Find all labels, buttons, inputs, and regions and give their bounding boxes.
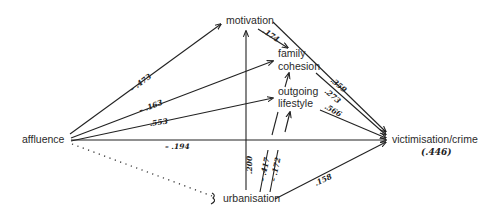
coef-urbanisation-victimisation: .158 [313,172,334,188]
coef-outgoing-lifestyle-victimisation: .566 [323,102,344,119]
node-victimisation-crime: victimisation/crime [392,133,478,145]
node-family-cohesion-line1: family [278,47,306,59]
coef-affluence-victimisation: – .194 [165,142,190,151]
victimisation-r-squared: (.446) [421,147,451,157]
edge-urbanisation-outgoing-lifestyle-upper [285,112,290,132]
node-outgoing-lifestyle-line2: lifestyle [278,97,313,109]
edge-urbanisation-victimisation [275,142,386,199]
path-diagram: affluence motivation family cohesion out… [0,0,495,214]
edge-outgoing-lifestyle-victimisation [320,110,386,138]
node-motivation: motivation [226,14,274,26]
coef-affluence-family-cohesion: – .163 [138,98,164,115]
coef-affluence-outgoing-lifestyle: .553 [149,117,168,128]
urbanisation-bracket-icon [211,193,215,204]
node-urbanisation: urbanisation [223,192,280,204]
edge-affluence-outgoing-lifestyle [71,98,273,141]
coef-affluence-motivation: – .473 [128,72,153,94]
edge-affluence-family-cohesion [71,61,273,138]
node-outgoing-lifestyle-line1: outgoing [278,85,318,97]
node-affluence: affluence [22,133,65,145]
edge-motivation-victimisation [273,22,386,132]
coef-urbanisation-motivation: .200 [245,155,254,174]
edge-urbanisation-family-cohesion-upper [272,112,278,135]
edge-affluence-urbanisation-dotted [72,144,212,196]
